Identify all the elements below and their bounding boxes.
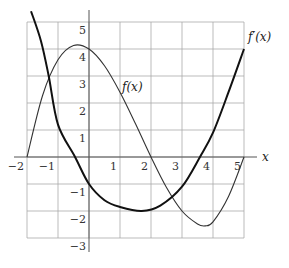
axes (14, 10, 257, 252)
f-prime-curve (31, 11, 244, 211)
y-tick-label: 1 (79, 132, 86, 145)
y-tick-label: 4 (79, 51, 86, 64)
y-tick-label: −1 (70, 186, 86, 199)
x-axis-label: x (262, 150, 269, 164)
y-tick-label: 3 (79, 78, 86, 91)
chart: −2−11234554321−1−2−3 f(x) f′(x) x (0, 0, 289, 268)
x-tick-label: 1 (110, 160, 117, 173)
f-label: f(x) (121, 80, 143, 94)
y-tick-label: −2 (70, 213, 86, 226)
x-tick-label: −1 (39, 160, 55, 173)
y-tick-label: 2 (79, 105, 86, 118)
x-tick-label: 3 (172, 160, 179, 173)
y-tick-label: −3 (70, 240, 86, 253)
x-tick-label: 4 (203, 160, 210, 173)
y-tick-label: 5 (79, 24, 86, 37)
x-tick-label: −2 (8, 160, 24, 173)
tick-labels: −2−11234554321−1−2−3 (8, 24, 241, 253)
f-prime-label: f′(x) (247, 30, 272, 44)
x-tick-label: 2 (141, 160, 148, 173)
